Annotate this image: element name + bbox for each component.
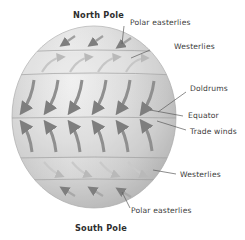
label-westerlies-south: Westerlies [180,170,221,179]
wind-circulation-figure: North Pole Polar easterlies Westerlies D… [0,0,245,240]
label-polar-easterlies-north: Polar easterlies [130,18,191,27]
diagram-canvas: North Pole Polar easterlies Westerlies D… [0,0,245,240]
label-south-pole: South Pole [75,223,127,233]
band-polar-north [10,26,180,52]
label-doldrums: Doldrums [190,84,228,93]
label-north-pole: North Pole [73,10,124,20]
label-westerlies-north: Westerlies [174,42,215,51]
globe [10,26,180,210]
label-trade-winds: Trade winds [189,127,237,136]
label-equator: Equator [188,111,220,120]
band-westerlies-south [10,158,180,180]
label-polar-easterlies-south: Polar easterlies [131,206,192,215]
